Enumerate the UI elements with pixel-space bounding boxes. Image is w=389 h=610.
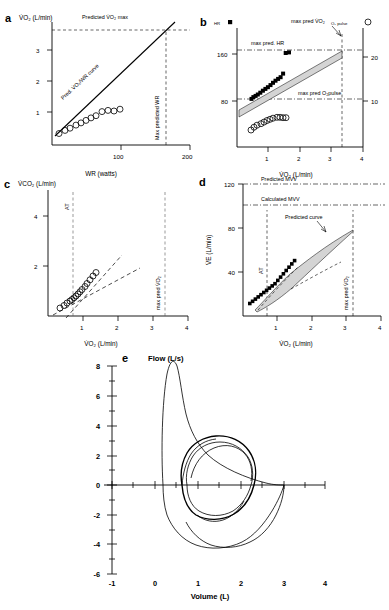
panel-a-label: a [5, 12, 12, 24]
panel-c-annotation-max-pred-vo2: max pred V̇O₂ [155, 276, 161, 310]
panel-a-ytick-1: 1 [36, 109, 40, 116]
panel-e-xtick-3: 3 [282, 579, 286, 588]
panel-d-annotation-predicted-curve: Predicted curve [285, 214, 322, 220]
panel-d-xlabel: V̇O₂ (L/min) [279, 340, 312, 348]
panel-d-y-ticks: 40 80 120 [224, 181, 243, 276]
panel-e-exercise-tidal-loop [181, 436, 255, 519]
panel-c-xtick-4: 4 [185, 324, 189, 331]
panel-b-annotation-max-pred-hr: max pred. HR [251, 40, 284, 46]
panel-b: 80 160 10 20 1 2 3 4 [195, 0, 389, 185]
panel-a-annotation-pred-curve: Pred. V̇O₂/WR curve [60, 63, 100, 101]
panel-b-ylabel-right: O₂ pulse [331, 21, 348, 26]
panel-c-xtick-1: 1 [80, 324, 84, 331]
panel-b-o2pulse-points [248, 114, 289, 133]
panel-b-annotation-max-pred-o2pulse: max pred O₂pulse [298, 90, 341, 96]
panel-c-label: c [4, 178, 10, 190]
panel-b-legend-o2pulse-marker [365, 19, 371, 25]
panel-b-ytick-right-10: 10 [371, 98, 378, 105]
panel-d-xtick-2: 2 [309, 324, 313, 331]
panel-b-ytick-80: 80 [221, 98, 228, 105]
panel-e-ytick-0: 0 [96, 481, 100, 490]
panel-e-y-ticks: 8 6 4 2 0 -2 -4 -6 [93, 362, 117, 579]
panel-a-xtick-100: 100 [113, 153, 124, 160]
panel-d-xtick-4: 4 [378, 324, 382, 331]
panel-e-ytick-8: 8 [96, 362, 100, 371]
panel-e-xtick-4: 4 [323, 579, 328, 588]
panel-e-xtick-neg1: -1 [109, 579, 116, 588]
panel-b-xtick-1: 1 [265, 155, 269, 162]
panel-b-predicted-band [239, 51, 342, 117]
panel-c-y-ticks: 2 4 [34, 213, 48, 270]
panel-c: 2 4 1 2 3 4 [0, 170, 200, 360]
panel-d-predicted-envelope [255, 230, 353, 312]
panel-c-xlabel: V̇O₂ (L/min) [84, 340, 117, 348]
panel-b-vo2-arrow [332, 26, 341, 36]
panel-c-ytick-2: 2 [34, 263, 38, 270]
panel-b-ytick-160: 160 [217, 51, 228, 58]
panel-d-xtick-1: 1 [274, 324, 278, 331]
panel-d-ytick-40: 40 [228, 269, 235, 276]
panel-d-ylabel: V̇E (L/min) [205, 235, 213, 265]
panel-b-xtick-2: 2 [297, 155, 301, 162]
panel-e-ytick-neg6: -6 [93, 570, 100, 579]
panel-c-ytick-4: 4 [34, 213, 38, 220]
panel-b-ytick-right-20: 20 [371, 54, 378, 61]
panel-a-x-ticks: 100 200 [113, 145, 193, 160]
panel-e-ytick-4: 4 [96, 422, 101, 431]
panel-d-annotation-at: AT [258, 267, 264, 274]
panel-e-ytick-2: 2 [96, 452, 100, 461]
panel-d: 40 80 120 1 2 3 4 [195, 170, 389, 360]
panel-a-plot: 1 2 3 100 200 [0, 0, 200, 185]
panel-b-plot: 80 160 10 20 1 2 3 4 [195, 0, 389, 185]
panel-c-x-ticks: 1 2 3 4 [80, 316, 189, 331]
panel-b-annotation-max-pred-vo2: max pred V̇O₂ [291, 18, 325, 24]
panel-e-tidal-trace-left [182, 439, 216, 485]
panel-a: 1 2 3 100 200 [0, 0, 200, 185]
panel-a-ytick-3: 3 [36, 47, 40, 54]
panel-b-xtick-4: 4 [360, 155, 364, 162]
panel-e-ylabel: Flow (L/s) [148, 354, 184, 363]
panel-d-annotation-max-pred-vo2: max pred V̇O₂ [343, 276, 349, 310]
panel-c-ylabel: V̇CO₂ (L/min) [18, 180, 56, 188]
panel-d-xtick-3: 3 [343, 324, 347, 331]
panel-c-annotation-at: AT [64, 203, 70, 210]
panel-a-ytick-2: 2 [36, 78, 40, 85]
panel-e-xlabel: Volume (L) [191, 592, 230, 601]
panel-e-ytick-6: 6 [96, 392, 100, 401]
panel-d-predicted-curve-arrow [317, 221, 326, 232]
panel-c-xtick-3: 3 [150, 324, 154, 331]
panel-e-xtick-2: 2 [239, 579, 243, 588]
panel-a-y-ticks: 1 2 3 [36, 47, 52, 116]
panel-b-y-ticks-left: 80 160 [217, 51, 237, 105]
panel-a-ylabel: V̇O₂ (L/min) [19, 14, 52, 22]
panel-b-y-ticks-right: 10 20 [363, 54, 378, 105]
panel-e-resting-tidal-loop [186, 442, 252, 516]
panel-e-label: e [122, 352, 128, 364]
panel-a-data-points [56, 106, 123, 136]
panel-e-xtick-0: 0 [153, 579, 157, 588]
panel-d-label: d [199, 176, 206, 188]
panel-e-ytick-neg4: -4 [93, 540, 100, 549]
panel-d-annotation-calculated-mvv: Calculated MVV [261, 196, 300, 202]
panel-d-ytick-80: 80 [228, 225, 235, 232]
panel-d-annotation-predicted-mvv: Predicted MVV [261, 176, 297, 182]
panel-e-ytick-neg2: -2 [93, 511, 100, 520]
panel-b-legend-hr-marker [228, 20, 232, 24]
panel-b-ylabel-left: HR [214, 21, 220, 26]
panel-d-plot: 40 80 120 1 2 3 4 [195, 170, 389, 360]
panel-e: 8 6 4 2 0 -2 -4 -6 -1 0 1 2 3 [60, 352, 360, 610]
panel-e-plot: 8 6 4 2 0 -2 -4 -6 -1 0 1 2 3 [60, 352, 360, 610]
panel-d-x-ticks: 1 2 3 4 [274, 316, 382, 331]
panel-a-annotation-max-pred-wr: Max predicted WR [154, 96, 160, 140]
panel-e-xtick-1: 1 [196, 579, 200, 588]
panel-a-xtick-200: 200 [182, 153, 193, 160]
panel-c-xtick-2: 2 [115, 324, 119, 331]
panel-b-label: b [200, 16, 207, 28]
panel-d-ytick-120: 120 [224, 181, 235, 188]
panel-b-x-ticks: 1 2 3 4 [265, 147, 364, 162]
panel-c-plot: 2 4 1 2 3 4 [0, 170, 200, 360]
panel-a-annotation-pred-vo2max: Predicted V̇O₂ max [82, 14, 128, 20]
panel-b-xtick-3: 3 [328, 155, 332, 162]
panel-c-slope-line-2 [66, 255, 122, 318]
panel-e-x-ticks: -1 0 1 2 3 4 [109, 481, 328, 588]
